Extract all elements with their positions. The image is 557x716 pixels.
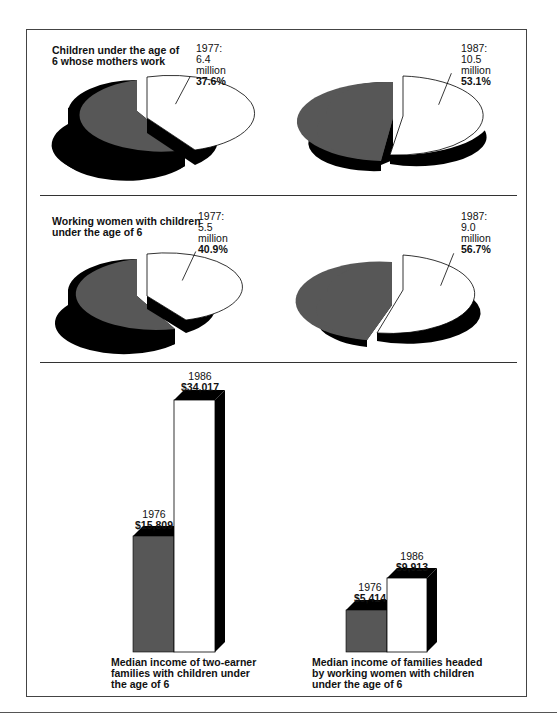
bars2-caption: Median income of families headed by work… — [312, 657, 482, 690]
bar1a-label: 1976 $15,809 — [130, 509, 178, 531]
bar2b-label: 1986 $9,913 — [392, 551, 432, 573]
bar2a-label: 1976 $5,414 — [350, 582, 390, 604]
bar1b-label: 1986 $34,017 — [175, 371, 225, 393]
percent: 53.1% — [461, 76, 491, 87]
pie1-title: Children under the age of 6 whose mother… — [52, 45, 179, 67]
pie-1987-children — [297, 73, 492, 171]
percent: 40.9% — [198, 244, 228, 255]
pie1-left-label: 1977: 6.4 million 37.6% — [196, 43, 226, 87]
pie2-title: Working women with children under the ag… — [52, 216, 201, 238]
percent: 56.7% — [461, 244, 491, 255]
value: $5,414 — [350, 593, 390, 604]
value: $9,913 — [392, 562, 432, 573]
pie-1977-children — [52, 75, 255, 180]
pie1-right-label: 1987: 10.5 million 53.1% — [461, 43, 491, 87]
percent: 37.6% — [196, 76, 226, 87]
pie2-left-label: 1977: 5.5 million 40.9% — [198, 211, 228, 255]
pie-1987-women — [296, 253, 481, 347]
value: $34,017 — [175, 382, 225, 393]
bars1-caption: Median income of two-earner families wit… — [111, 657, 256, 690]
chart-graphics — [0, 0, 557, 716]
pie2-right-label: 1987: 9.0 million 56.7% — [461, 211, 491, 255]
pie-1977-women — [55, 251, 243, 354]
value: $15,809 — [130, 520, 178, 531]
